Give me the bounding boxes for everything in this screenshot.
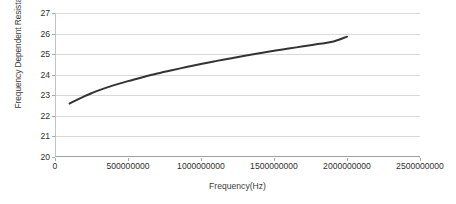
gridline-horizontal <box>56 75 420 76</box>
y-tick-mark <box>52 13 55 14</box>
y-tick-label: 21 <box>28 132 50 140</box>
gridline-horizontal <box>56 54 420 55</box>
y-tick-mark <box>52 116 55 117</box>
y-tick-mark <box>52 75 55 76</box>
gridline-horizontal <box>56 34 420 35</box>
gridline-horizontal <box>56 136 420 137</box>
y-tick-label: 27 <box>28 9 50 17</box>
x-tick-label: 2000000000 <box>323 161 371 171</box>
y-tick-mark <box>52 54 55 55</box>
y-tick-label: 25 <box>28 50 50 58</box>
x-tick-label: 0 <box>53 161 58 171</box>
x-tick-label: 2500000000 <box>396 161 444 171</box>
plot-area <box>55 13 420 157</box>
y-tick-label: 26 <box>28 30 50 38</box>
x-tick-label: 500000000 <box>106 161 149 171</box>
chart-title <box>60 0 410 3</box>
gridline-horizontal <box>56 95 420 96</box>
line-chart: Frequency Dependent Resistance(Ohm) 2021… <box>0 0 456 204</box>
y-axis-title: Frequency Dependent Resistance(Ohm) <box>13 0 23 115</box>
y-tick-label: 22 <box>28 112 50 120</box>
y-tick-label: 20 <box>28 153 50 161</box>
y-tick-mark <box>52 95 55 96</box>
y-tick-label: 23 <box>28 91 50 99</box>
gridline-horizontal <box>56 116 420 117</box>
y-tick-mark <box>52 34 55 35</box>
x-tick-label: 1500000000 <box>250 161 298 171</box>
gridline-horizontal <box>56 13 420 14</box>
x-axis-title: Frequency(Hz) <box>55 181 420 191</box>
y-tick-label: 24 <box>28 71 50 79</box>
x-tick-label: 1000000000 <box>177 161 225 171</box>
y-tick-mark <box>52 136 55 137</box>
